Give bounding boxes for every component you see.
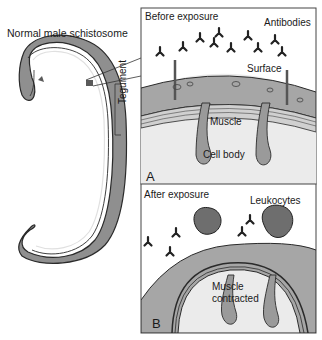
muscle-contracted-label-2: contracted [212, 294, 259, 304]
figure-title: Normal male schistosome [7, 28, 128, 39]
cell-body-label: Cell body [203, 150, 245, 160]
panel-a [141, 8, 316, 200]
panel-b-title: After exposure [144, 190, 209, 200]
surface-label: Surface [247, 64, 281, 74]
muscle-label: Muscle [210, 117, 242, 127]
panel-b [141, 184, 316, 333]
tegument-label: Tegument [118, 60, 128, 104]
panel-a-letter: A [146, 170, 155, 183]
panel-b-letter: B [152, 317, 161, 330]
schistosome-diagram: Normal male schistosome Tegument Before … [0, 0, 322, 340]
antibodies-label: Antibodies [264, 18, 311, 28]
muscle-contracted-label-1: Muscle [212, 282, 244, 292]
panel-a-title: Before exposure [145, 12, 218, 22]
leukocytes-label: Leukocytes [250, 196, 301, 206]
